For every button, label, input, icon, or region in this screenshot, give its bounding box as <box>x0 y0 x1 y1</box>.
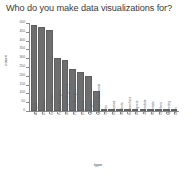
chart-title: Who do you make data visualizations for? <box>6 3 172 13</box>
x-tick-label: Teachers <box>160 102 163 115</box>
x-tick-label: Researchers <box>129 97 132 115</box>
y-axis-title: count <box>3 48 8 74</box>
y-tick-label: 50 <box>21 100 25 103</box>
y-tick-label: 250 <box>19 65 25 68</box>
y-tick-label-wrap: 400 <box>0 39 25 43</box>
y-tick-label: 400 <box>19 39 25 42</box>
y-tick <box>26 102 29 103</box>
x-tick-label: Executives <box>43 100 46 115</box>
y-tick-label-wrap: 50 <box>0 100 25 104</box>
y-tick <box>26 111 29 112</box>
y-tick-label-wrap: 150 <box>0 83 25 87</box>
x-tick-label: Medical Professionals <box>98 84 101 115</box>
y-tick-label: 200 <box>19 74 25 77</box>
x-tick-label: Analysts <box>35 103 38 115</box>
x-tick-label: Marketing <box>168 101 171 115</box>
y-tick <box>26 41 29 42</box>
y-tick <box>26 76 29 77</box>
y-tick-label-wrap: 500 <box>0 21 25 25</box>
y-tick <box>26 67 29 68</box>
x-tick-label: Educators <box>113 101 116 115</box>
y-tick <box>26 85 29 86</box>
x-tick-label: Journalists <box>144 100 147 115</box>
y-tick-label-wrap: 0 <box>0 109 25 113</box>
x-tick-label: Designers <box>136 101 139 115</box>
y-tick <box>26 23 29 24</box>
y-tick <box>26 58 29 59</box>
x-tick-label: Engineers <box>82 101 85 115</box>
y-tick <box>26 93 29 94</box>
y-tick-label-wrap: 100 <box>0 91 25 95</box>
y-tick-label: 100 <box>19 91 25 94</box>
x-tick-label: General Public <box>51 94 54 115</box>
y-tick-label: 450 <box>19 30 25 33</box>
x-tick-label: Product Managers <box>74 89 77 115</box>
bar <box>31 25 38 111</box>
y-tick-label: 150 <box>19 83 25 86</box>
x-tick-label: Clients <box>105 105 108 115</box>
y-tick-label-wrap: 450 <box>0 30 25 34</box>
y-tick-label: 350 <box>19 47 25 50</box>
x-tick-label: Developers/Engineers <box>66 84 69 115</box>
y-tick-label: 0 <box>23 109 25 112</box>
x-tick-label: Other <box>175 107 178 115</box>
x-tick-label: Managers <box>90 101 93 115</box>
y-tick-label: 300 <box>19 56 25 59</box>
x-tick-label: Scientists <box>152 101 155 115</box>
x-tick-label: Students <box>121 102 124 115</box>
y-tick <box>26 49 29 50</box>
y-tick-label-wrap: 200 <box>0 74 25 78</box>
bar-chart: Who do you make data visualizations for?… <box>0 0 196 173</box>
x-axis-title: type <box>0 162 196 167</box>
x-tick-label: Project Managers <box>59 90 62 115</box>
y-tick-label: 500 <box>19 21 25 24</box>
y-tick <box>26 32 29 33</box>
bar <box>38 27 45 111</box>
